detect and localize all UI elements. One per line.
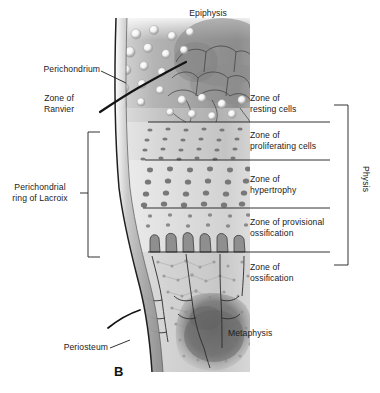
label-zone-of-ranvier: Zone of Ranvier [18,93,100,116]
label-zone-of-provisional-ossification: Zone of provisional ossification [250,217,342,240]
label-epiphysis: Epiphysis [168,8,248,19]
bracket-physis [334,105,348,265]
label-zone-of-proliferating-cells: Zone of proliferating cells [250,130,336,153]
periosteum-reflection-line [108,310,140,328]
label-zone-of-hypertrophy: Zone of hypertrophy [250,174,336,197]
label-periosteum: Periosteum [0,342,108,353]
figure-panel-label: B [114,364,123,379]
label-zone-of-ossification: Zone of ossification [250,262,336,285]
label-perichondrium: Perichondrium [0,64,100,75]
bracket-perichondrial-ring [88,132,100,257]
label-physis: Physis [361,166,371,192]
label-perichondrial-ring-of-lacroix: Perichondrial ring of Lacroix [0,182,80,205]
label-metaphysis: Metaphysis [228,328,308,339]
leader-periosteum [110,340,130,348]
label-zone-of-resting-cells: Zone of resting cells [250,93,336,116]
